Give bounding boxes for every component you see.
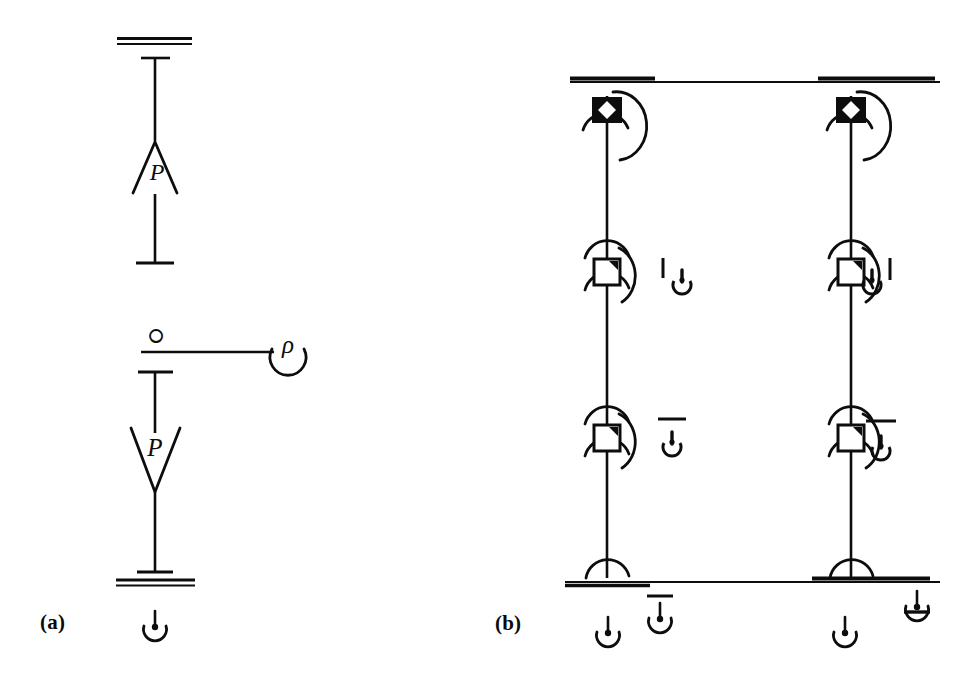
panel-b-left-disconnect-upper[interactable] (585, 241, 635, 302)
panel-a-group: P ഠ ρ P (116, 39, 306, 641)
panel-b-ground-left-annotation (647, 596, 673, 633)
panel-b-left-status-indicator-upper (663, 258, 691, 294)
diagram-svg: P ഠ ρ P (0, 0, 963, 692)
panel-a-ground-symbol (144, 611, 167, 641)
panel-b-right-breaker[interactable] (827, 92, 891, 160)
panel-a-node-glyph: ഠ (147, 322, 163, 348)
panel-b-lower-bus (565, 579, 940, 586)
panel-a-lower-winding: P (131, 428, 180, 492)
panel-a-lower-winding-label: P (146, 434, 162, 461)
panel-b-ground-right-annotation (904, 591, 930, 621)
panel-b-group (565, 79, 940, 647)
panel-b-left-status-indicator-lower (658, 419, 686, 456)
figure-canvas: P ഠ ρ P (0, 0, 963, 692)
panel-b-ground-left-feeder (597, 617, 620, 647)
panel-b-right-feeder (827, 92, 891, 578)
panel-a-bottom-bus-bar (116, 580, 195, 586)
panel-a-upper-winding-label: P (149, 159, 165, 185)
panel-b-left-disconnect-lower[interactable] (585, 407, 635, 468)
panel-b-left-breaker[interactable] (583, 92, 647, 160)
panel-a-label: (a) (40, 610, 65, 635)
panel-a-rho-arc-symbol: ρ (270, 331, 306, 375)
panel-a-upper-winding: P (133, 142, 177, 193)
panel-b-left-feeder (583, 92, 647, 578)
panel-a-rho-label: ρ (281, 331, 294, 358)
panel-b-right-disconnect-lower[interactable] (829, 407, 879, 468)
panel-a-top-bus-bar (117, 39, 192, 45)
panel-b-upper-bus (570, 79, 940, 83)
panel-b-label: (b) (495, 611, 521, 636)
panel-b-right-status-indicator-lower (866, 421, 896, 460)
panel-b-ground-right-feeder (834, 617, 857, 647)
